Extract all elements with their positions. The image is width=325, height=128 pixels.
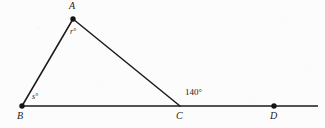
vertex-dot-b (19, 103, 24, 108)
geometry-canvas (0, 0, 325, 128)
angle-label-b: s° (32, 93, 38, 101)
geometry-figure: A B C D r° s° 140° (0, 0, 325, 128)
segment-ab (22, 19, 73, 106)
vertex-dot-d (271, 103, 276, 108)
vertex-label-d: D (270, 111, 277, 121)
vertex-label-c: C (176, 111, 183, 121)
vertex-label-a: A (69, 1, 75, 11)
angle-label-c: 140° (185, 88, 202, 97)
segment-ac (73, 19, 180, 106)
vertex-label-b: B (17, 111, 23, 121)
angle-label-a: r° (70, 28, 76, 36)
vertex-dot-a (70, 16, 75, 21)
